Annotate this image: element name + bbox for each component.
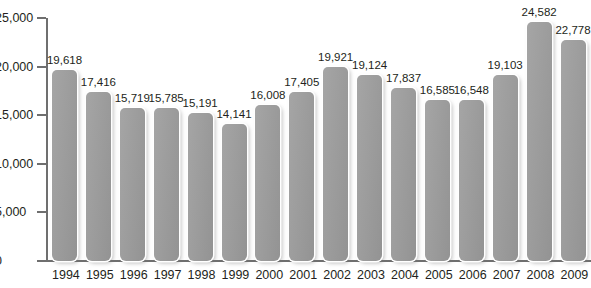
x-axis-label: 1995 [86,266,111,284]
bar-column: 24,582 [527,18,552,261]
bar-value-label: 19,124 [352,59,387,72]
bar [222,124,247,261]
bar [120,108,145,261]
bar [561,40,586,261]
bar [357,75,382,261]
bar-column: 17,837 [391,18,416,261]
bar-value-label: 19,103 [488,59,523,72]
bar [459,100,484,261]
bar-value-label: 19,921 [318,51,353,64]
x-axis-label: 1998 [188,266,213,284]
bar-column: 15,191 [188,18,213,261]
bar-value-label: 15,191 [183,97,218,110]
bar-column: 19,618 [52,18,77,261]
bar-column: 15,785 [154,18,179,261]
bar-value-label: 17,837 [386,72,421,85]
bar-column: 19,921 [323,18,348,261]
bar-value-label: 17,405 [284,76,319,89]
y-tick-mark [37,17,46,19]
bar-value-label: 17,416 [81,76,116,89]
bar [188,113,213,261]
bar-column: 17,416 [86,18,111,261]
bar-value-label: 14,141 [216,108,251,121]
bar-column: 17,405 [289,18,314,261]
bar [289,92,314,261]
bar-value-label: 16,585 [420,84,455,97]
bar [425,100,450,261]
bar-chart: 05,00010,00015,00020,00025,000 19,61817,… [0,0,591,288]
bar-value-label: 19,618 [47,54,82,67]
bar-value-label: 15,719 [115,92,150,105]
bar-column: 22,778 [561,18,586,261]
x-axis-label: 2001 [289,266,314,284]
x-axis-label: 2004 [391,266,416,284]
bar-column: 19,124 [357,18,382,261]
bar [527,22,552,261]
y-tick-mark [37,66,46,68]
x-axis-label: 2003 [357,266,382,284]
bar-value-label: 16,548 [454,84,489,97]
y-tick-mark [37,260,46,262]
y-tick-mark [37,163,46,165]
clipped-title-artifact [0,0,591,5]
bar-column: 14,141 [222,18,247,261]
x-axis-label: 2002 [323,266,348,284]
bar [255,105,280,261]
x-axis-label: 1999 [222,266,247,284]
bar-series: 19,61817,41615,71915,78515,19114,14116,0… [46,18,591,261]
bar-column: 19,103 [493,18,518,261]
bar-value-label: 15,785 [149,92,184,105]
x-axis-label: 1994 [52,266,77,284]
bar-value-label: 24,582 [522,6,557,19]
bar-column: 16,008 [255,18,280,261]
x-axis-label: 2000 [255,266,280,284]
x-axis-label: 2009 [561,266,586,284]
bar [86,92,111,261]
y-tick-mark [37,114,46,116]
bar [154,108,179,261]
bar-value-label: 16,008 [250,89,285,102]
bar-column: 15,719 [120,18,145,261]
x-axis-label: 1996 [120,266,145,284]
x-axis-labels: 1994199519961997199819992000200120022003… [46,266,591,286]
x-axis-label: 2007 [493,266,518,284]
bar [323,67,348,261]
bar [391,88,416,261]
bar-value-label: 22,778 [555,24,590,37]
x-axis-label: 2005 [425,266,450,284]
x-axis-label: 2008 [527,266,552,284]
bar [493,75,518,261]
x-axis-label: 2006 [459,266,484,284]
y-tick-mark [37,211,46,213]
bar-column: 16,585 [425,18,450,261]
bar [52,70,77,261]
bar-column: 16,548 [459,18,484,261]
x-axis-label: 1997 [154,266,179,284]
